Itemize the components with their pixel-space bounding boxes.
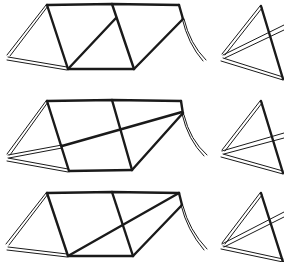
frame-main-3 xyxy=(6,192,207,257)
frame-variant-3 xyxy=(0,0,284,262)
seat-tube xyxy=(261,193,283,262)
rear-seat-tube xyxy=(47,193,68,256)
rear-triangle-detail-3 xyxy=(221,193,284,262)
cross-stay-b xyxy=(224,217,284,247)
seat-stay-right xyxy=(9,194,48,245)
down-tube xyxy=(133,205,182,256)
tandem-frame-diagram xyxy=(0,0,284,262)
chain-stay-left xyxy=(221,249,283,262)
seat-stay-left xyxy=(6,193,46,244)
seat-stay-right xyxy=(225,195,262,244)
seat-stay-left xyxy=(222,193,260,243)
chain-stay-left xyxy=(7,250,67,257)
fork-right xyxy=(183,206,207,249)
chain-stay-right xyxy=(223,246,283,259)
head-tube xyxy=(179,193,182,205)
chain-stay-right xyxy=(8,247,67,254)
